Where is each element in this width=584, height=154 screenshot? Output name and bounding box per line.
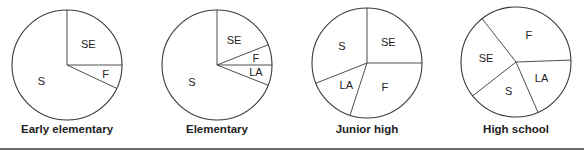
slice-label-se: SE <box>81 38 96 50</box>
slice-label-la: LA <box>340 79 354 91</box>
slice-label-f: F <box>381 81 388 93</box>
pie-title: High school <box>483 123 549 135</box>
pie-chart-junior-high: SEFLASJunior high <box>312 8 422 135</box>
pie-chart-early-elementary: SEFSEarly elementary <box>12 10 122 135</box>
pie-title: Junior high <box>336 123 399 135</box>
slice-label-s: S <box>338 40 345 52</box>
slice-label-la: LA <box>535 72 549 84</box>
slice-label-s: S <box>188 76 195 88</box>
pie-chart-high-school: FLASSEHigh school <box>461 7 571 135</box>
slice-label-se: SE <box>227 34 242 46</box>
pie-charts-figure: SEFSEarly elementarySEFLASElementarySEFL… <box>0 0 584 154</box>
slice-label-f: F <box>253 52 260 64</box>
slice-label-la: LA <box>249 66 263 78</box>
bottom-divider <box>0 148 584 150</box>
slice-label-s: S <box>38 75 45 87</box>
slice-label-f: F <box>102 68 109 80</box>
slice-label-se: SE <box>479 52 494 64</box>
pie-title: Elementary <box>186 123 249 135</box>
slice-label-se: SE <box>381 36 396 48</box>
pie-title: Early elementary <box>21 123 114 135</box>
slice-label-f: F <box>525 29 532 41</box>
pie-chart-elementary: SEFLASElementary <box>162 10 272 135</box>
slice-label-s: S <box>505 85 512 97</box>
